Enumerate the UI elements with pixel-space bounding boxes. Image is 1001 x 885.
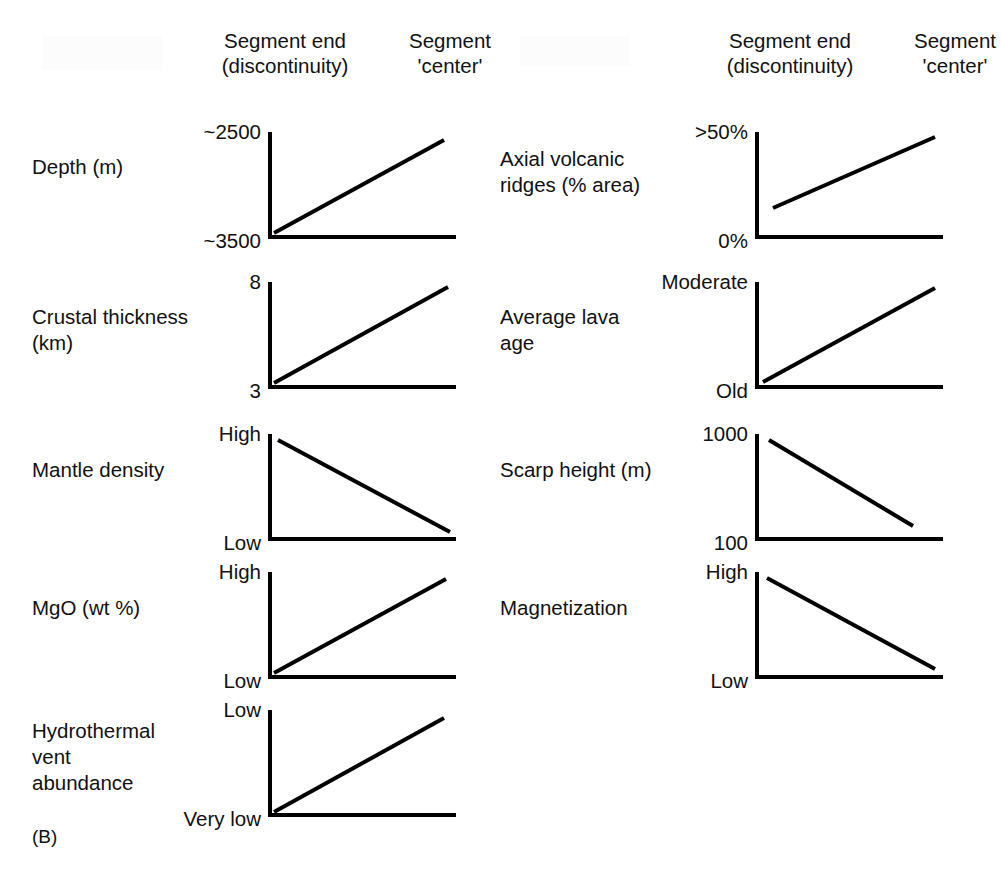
panel-scarp-height: Scarp height (m) 1000 100 [490,424,963,554]
scan-artifact [42,36,162,70]
ytick-bottom-mgo: Low [223,670,261,692]
ytick-top-crustal-thickness: 8 [250,271,261,293]
plot-svg-scarp-height [755,434,945,542]
panel-label-mgo: MgO (wt %) [32,595,247,621]
ytick-bottom-mantle-density: Low [223,532,261,554]
column-headers-left: Segment end (discontinuity) Segment 'cen… [185,28,485,98]
scan-artifact [520,36,630,66]
header-segment-center-right: Segment 'center' [895,28,1001,78]
panel-label-hydrothermal-vent-abundance: Hydrothermal vent abundance [32,718,247,796]
panel-mgo: MgO (wt %) High Low [0,562,470,692]
panel-hydrothermal-vent-abundance: Hydrothermal vent abundance Low Very low [0,700,470,830]
ytick-top-mgo: High [219,561,261,583]
panel-label-depth: Depth (m) [32,154,237,180]
plot-svg-mgo [268,572,458,680]
plot-svg-axial-volcanic-ridges [755,132,945,240]
panel-label-magnetization: Magnetization [500,595,730,621]
plot-svg-depth [268,132,458,240]
panel-magnetization: Magnetization High Low [490,562,963,692]
plot-axial-volcanic-ridges: >50% 0% [755,132,945,240]
panel-depth: Depth (m) ~2500 ~3500 [0,124,470,254]
ytick-top-average-lava-age: Moderate [661,271,748,293]
plot-mgo: High Low [268,572,458,680]
panel-mantle-density: Mantle density High Low [0,424,470,554]
panel-label-axial-volcanic-ridges: Axial volcanic ridges (% area) [500,146,720,198]
plot-mantle-density: High Low [268,434,458,542]
panel-label-scarp-height: Scarp height (m) [500,457,730,483]
ytick-bottom-depth: ~3500 [203,230,261,252]
ytick-bottom-scarp-height: 100 [714,532,748,554]
ytick-top-scarp-height: 1000 [702,423,748,445]
ytick-top-mantle-density: High [219,423,261,445]
panel-label-crustal-thickness: Crustal thickness (km) [32,304,247,356]
panel-crustal-thickness: Crustal thickness (km) 8 3 [0,272,470,402]
panel-axial-volcanic-ridges: Axial volcanic ridges (% area) >50% 0% [490,124,963,254]
plot-svg-hydrothermal-vent-abundance [268,710,458,818]
plot-average-lava-age: Moderate Old [755,282,945,390]
ytick-bottom-magnetization: Low [710,670,748,692]
plot-crustal-thickness: 8 3 [268,282,458,390]
ytick-top-hydrothermal-vent-abundance: Low [223,699,261,721]
panel-label-mantle-density: Mantle density [32,457,247,483]
header-segment-end-left: Segment end (discontinuity) [185,28,385,78]
ytick-bottom-average-lava-age: Old [716,380,748,402]
panel-label-average-lava-age: Average lava age [500,304,720,356]
plot-magnetization: High Low [755,572,945,680]
ytick-bottom-crustal-thickness: 3 [250,380,261,402]
plot-svg-mantle-density [268,434,458,542]
ytick-bottom-hydrothermal-vent-abundance: Very low [184,808,261,830]
header-segment-center-left: Segment 'center' [390,28,510,78]
ytick-bottom-axial-volcanic-ridges: 0% [718,230,748,252]
plot-svg-crustal-thickness [268,282,458,390]
plot-depth: ~2500 ~3500 [268,132,458,240]
plot-svg-magnetization [755,572,945,680]
plot-svg-average-lava-age [755,282,945,390]
ytick-top-magnetization: High [706,561,748,583]
header-segment-end-right: Segment end (discontinuity) [690,28,890,78]
column-headers-right: Segment end (discontinuity) Segment 'cen… [690,28,990,98]
plot-hydrothermal-vent-abundance: Low Very low [268,710,458,818]
ytick-top-depth: ~2500 [203,121,261,143]
figure-caption: (B) [32,826,57,848]
ytick-top-axial-volcanic-ridges: >50% [695,121,748,143]
plot-scarp-height: 1000 100 [755,434,945,542]
panel-average-lava-age: Average lava age Moderate Old [490,272,963,402]
